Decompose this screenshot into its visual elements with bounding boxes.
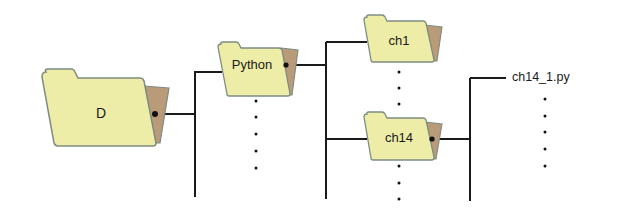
directory-tree-diagram: D Python ch1 ch14 ch14_1.py (0, 0, 618, 214)
folder-python[interactable]: Python (218, 42, 298, 96)
node-dot (429, 136, 434, 141)
ellipsis-between-ch1-ch14 (398, 71, 401, 106)
folder-d[interactable]: D (42, 69, 169, 146)
folder-label-ch1: ch1 (389, 33, 410, 48)
ellipsis-below-ch14 (398, 165, 401, 201)
folder-ch14[interactable]: ch14 (364, 112, 442, 160)
node-dot (283, 62, 288, 67)
folder-label-python: Python (232, 57, 272, 72)
ellipsis-below-python (255, 100, 258, 170)
file-label-ch14-1-py[interactable]: ch14_1.py (512, 70, 570, 84)
folder-ch1[interactable]: ch1 (364, 15, 442, 62)
folder-label-d: D (96, 105, 106, 121)
folder-label-ch14: ch14 (385, 130, 413, 145)
connector-lines (156, 42, 506, 201)
ellipsis-below-file (544, 98, 547, 168)
node-dot (152, 111, 158, 117)
